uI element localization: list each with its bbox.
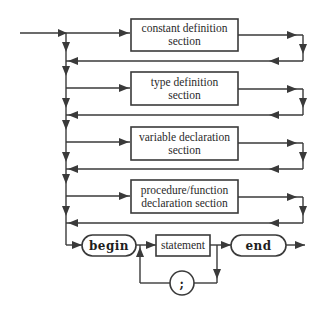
arrow-down-icon	[62, 42, 70, 52]
arrow-down-icon	[299, 152, 307, 162]
constant-section-branch: constant definition section	[66, 19, 307, 65]
exit-arrow-icon	[295, 241, 305, 249]
arrow-down-icon	[299, 44, 307, 54]
arrow-down-icon	[62, 152, 70, 162]
arrow-icon	[221, 241, 231, 249]
arrow-down-icon	[213, 269, 221, 279]
arrow-left-icon	[269, 57, 279, 65]
section-label: declaration section	[141, 197, 228, 209]
arrow-icon	[287, 85, 297, 93]
arrow-icon	[119, 84, 129, 92]
arrow-down-icon	[62, 174, 70, 184]
arrow-up-icon	[136, 247, 144, 257]
arrow-icon	[119, 192, 129, 200]
section-label: section	[168, 35, 201, 47]
syntax-diagram: constant definition section type definit…	[0, 0, 324, 313]
section-label: procedure/function	[141, 184, 229, 197]
arrow-down-icon	[299, 206, 307, 216]
arrow-down-icon	[62, 66, 70, 76]
compound-statement-row: begin statement end ;	[66, 235, 305, 295]
arrow-icon	[119, 29, 129, 37]
semicolon-label: ;	[180, 277, 185, 291]
arrow-left-icon	[68, 219, 78, 227]
section-label: constant definition	[142, 22, 228, 34]
arrow-left-icon	[269, 165, 279, 173]
section-label: type definition	[151, 76, 219, 89]
arrow-icon	[287, 139, 297, 147]
arrow-icon	[146, 241, 156, 249]
arrow-down-icon	[62, 206, 70, 216]
arrow-left-icon	[269, 219, 279, 227]
begin-keyword-label: begin	[89, 239, 129, 253]
variable-section-branch: variable declaration section	[66, 127, 307, 173]
arrow-left-icon	[68, 57, 78, 65]
arrow-left-icon	[68, 111, 78, 119]
end-keyword-label: end	[245, 239, 271, 253]
statement-label: statement	[161, 239, 206, 251]
arrow-left-icon	[68, 165, 78, 173]
section-label: section	[168, 89, 201, 101]
arrow-icon	[119, 138, 129, 146]
arrow-left-icon	[269, 111, 279, 119]
arrow-down-icon	[62, 120, 70, 130]
type-section-branch: type definition section	[66, 72, 307, 119]
section-label: variable declaration	[139, 131, 230, 143]
arrow-icon	[287, 193, 297, 201]
section-label: section	[168, 144, 201, 156]
arrow-down-icon	[62, 98, 70, 108]
arrow-icon	[72, 241, 82, 249]
arrow-down-icon	[299, 98, 307, 108]
arrow-icon	[287, 31, 297, 39]
procedure-section-branch: procedure/function declaration section	[66, 180, 307, 227]
